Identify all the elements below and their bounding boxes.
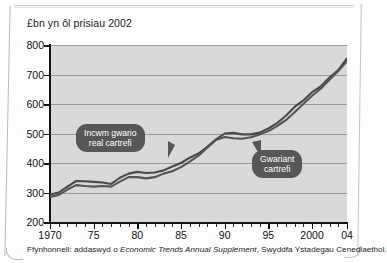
- x-axis-tick-2002: [330, 223, 331, 227]
- x-axis-tick-1971: [59, 223, 60, 227]
- x-axis-tick-1977: [111, 223, 112, 227]
- page-frame-top-rule-2: [14, 7, 354, 8]
- page-frame-top-rule: [14, 5, 354, 6]
- x-axis-label-2000: 2000: [300, 229, 323, 241]
- x-axis-tick-1973: [76, 223, 77, 227]
- page-frame-right-rule: [357, 4, 362, 256]
- y-axis-labels-group: 200300400500600700800: [16, 0, 44, 263]
- source-note: Ffynhonnell: addaswyd o Economic Trends …: [27, 245, 387, 254]
- callout-tail-income: [168, 141, 175, 158]
- y-axis-label-800: 800: [26, 39, 44, 51]
- x-axis-tick-1984: [172, 223, 173, 227]
- x-axis-tick-1999: [303, 223, 304, 227]
- x-axis-label-1985: 85: [175, 229, 187, 241]
- y-axis-label-600: 600: [26, 98, 44, 110]
- x-axis-tick-1979: [129, 223, 130, 227]
- x-axis-tick-1988: [207, 223, 208, 227]
- callout-incwm-gwario-real-cartrefi: Incwm gwario real cartrefi: [76, 124, 145, 152]
- x-axis-label-1995: 95: [263, 229, 275, 241]
- y-axis-label-700: 700: [26, 69, 44, 81]
- x-axis-tick-1991: [233, 223, 234, 227]
- x-axis-tick-1972: [67, 223, 68, 227]
- x-axis-label-1990: 90: [219, 229, 231, 241]
- y-axis-label-200: 200: [26, 216, 44, 228]
- y-axis-label-300: 300: [26, 187, 44, 199]
- y-axis-label-400: 400: [26, 157, 44, 169]
- x-axis-tick-2001: [321, 223, 322, 227]
- x-axis-tick-1983: [164, 223, 165, 227]
- x-axis-tick-1997: [286, 223, 287, 227]
- x-axis-tick-1974: [85, 223, 86, 227]
- x-axis-tick-1992: [242, 223, 243, 227]
- x-axis-tick-1996: [277, 223, 278, 227]
- x-axis-label-1975: 75: [88, 229, 100, 241]
- source-publication-name: Economic Trends Annual Supplement: [120, 245, 257, 254]
- x-axis-tick-1981: [146, 223, 147, 227]
- x-axis-tick-1978: [120, 223, 121, 227]
- x-axis-label-1970: 1970: [38, 229, 61, 241]
- x-axis-tick-1993: [251, 223, 252, 227]
- page-frame-left-rule: [4, 6, 10, 256]
- x-axis-tick-1987: [199, 223, 200, 227]
- x-axis-tick-1986: [190, 223, 191, 227]
- x-axis-label-1980: 80: [132, 229, 144, 241]
- x-axis-tick-1976: [102, 223, 103, 227]
- y-axis-label-500: 500: [26, 128, 44, 140]
- x-axis-label-2004: 04: [341, 229, 353, 241]
- x-axis-tick-1998: [295, 223, 296, 227]
- x-axis-tick-1994: [260, 223, 261, 227]
- x-axis-tick-2003: [338, 223, 339, 227]
- x-axis-tick-1989: [216, 223, 217, 227]
- x-axis-tick-1982: [155, 223, 156, 227]
- callout-gwariant-cartrefi: Gwariant cartrefi: [252, 150, 302, 178]
